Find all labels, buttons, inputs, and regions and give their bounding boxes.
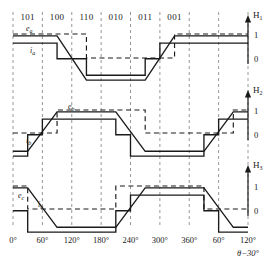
xtick-5: 300° [152, 235, 168, 245]
xtick-4: 240° [122, 235, 138, 245]
x-axis-label: θ−30° [237, 248, 259, 258]
sector-label-001: 001 [167, 12, 181, 22]
xtick-2: 120° [64, 235, 80, 245]
sector-label-011: 011 [138, 12, 152, 22]
label-e_a: ea [26, 24, 33, 34]
xtick-3: 180° [93, 235, 109, 245]
figure-root: 101100110010011001H110eaiaH210ebibH310ec… [0, 0, 271, 264]
sector-label-100: 100 [50, 12, 65, 22]
ytick-high-H3: 1 [254, 182, 258, 192]
label-i_b: ib [26, 136, 31, 146]
ytick-high-H2: 1 [254, 106, 258, 116]
label-i_a: ia [30, 46, 35, 56]
sector-label-110: 110 [79, 12, 93, 22]
xtick-0: 0° [9, 235, 17, 245]
label-e_c: ec [18, 191, 25, 201]
axis-arrow-H2 [245, 90, 251, 97]
axis-title-H2: H2 [253, 85, 263, 97]
ytick-low-H3: 0 [254, 206, 258, 216]
label-e_b: eb [68, 102, 75, 112]
ytick-low-H2: 0 [254, 130, 258, 140]
xtick-8: 120° [240, 235, 256, 245]
phase-current-i_a [13, 43, 248, 75]
xtick-6: 360° [181, 235, 197, 245]
sector-label-010: 010 [109, 12, 124, 22]
axis-title-H3: H3 [253, 160, 263, 172]
xtick-7: 60° [213, 235, 225, 245]
ytick-high-H1: 1 [254, 30, 258, 40]
axis-title-H1: H1 [253, 10, 263, 22]
label-i_c: ic [38, 200, 43, 210]
axis-arrow-H3 [245, 165, 251, 172]
xtick-1: 60° [36, 235, 48, 245]
axis-arrow-H1 [245, 15, 251, 22]
ytick-low-H1: 0 [254, 54, 258, 64]
timing-diagram: 101100110010011001H110eaiaH210ebibH310ec… [0, 0, 271, 264]
sector-label-101: 101 [20, 12, 34, 22]
